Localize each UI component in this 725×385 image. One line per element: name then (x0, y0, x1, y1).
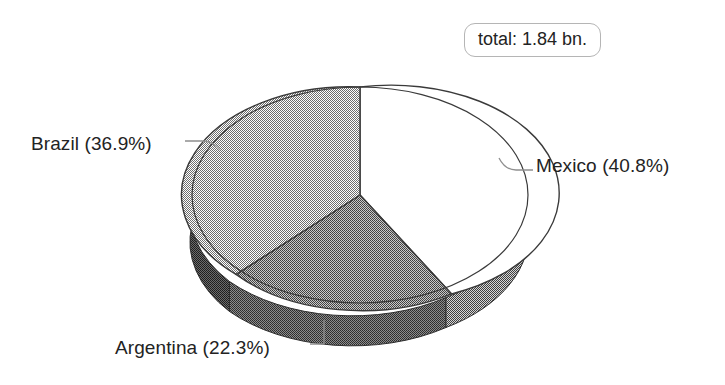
total-callout: total: 1.84 bn. (464, 23, 601, 57)
pie-chart-figure: Mexico (40.8%) Brazil (36.9%) Argentina … (0, 0, 725, 385)
slice-label-brazil: Brazil (36.9%) (31, 133, 152, 155)
slice-label-argentina: Argentina (22.3%) (115, 337, 270, 359)
slice-label-mexico: Mexico (40.8%) (536, 155, 669, 177)
pie-chart-graphic (0, 0, 725, 385)
